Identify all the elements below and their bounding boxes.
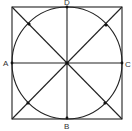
point-top-right-diagonal [104,23,107,26]
label-a: A [3,59,9,68]
center-point [65,61,69,65]
point-a [11,62,14,65]
label-b: B [64,122,69,131]
point-bottom-left-diagonal [26,101,29,104]
point-bottom-right-diagonal [103,101,106,104]
label-c: C [125,60,131,69]
point-c [121,62,124,65]
geometry-diagram: A C D B [0,0,132,131]
point-b [66,117,69,120]
point-top-left-diagonal [27,22,30,25]
label-d: D [64,0,70,7]
